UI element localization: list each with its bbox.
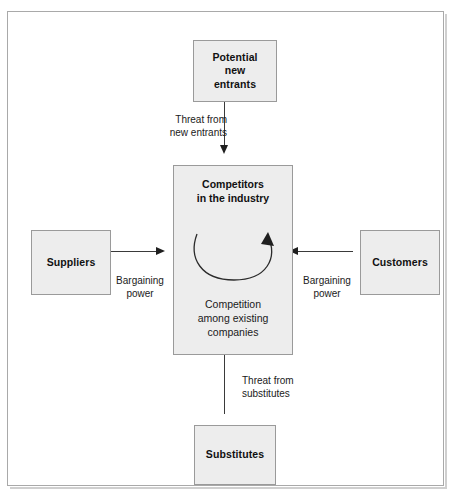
- edge-suppliers-to-center-arrowhead: [156, 247, 165, 255]
- node-customers-label: Customers: [372, 256, 428, 269]
- node-suppliers-label: Suppliers: [47, 256, 96, 269]
- edge-label-customer-bargaining-power: Bargaining power: [296, 274, 358, 301]
- node-customers[interactable]: Customers: [360, 230, 440, 295]
- node-potential-new-entrants[interactable]: Potential new entrants: [193, 40, 277, 102]
- node-potential-new-entrants-label: Potential new entrants: [212, 51, 257, 91]
- edge-label-threat-new-entrants: Threat from new entrants: [149, 113, 227, 140]
- edge-customers-to-center-line: [298, 251, 353, 252]
- edge-entrants-to-center-arrowhead: [220, 145, 228, 154]
- circular-rivalry-arrow-icon: [188, 228, 280, 290]
- node-center-subtitle: Competition among existing companies: [174, 298, 292, 340]
- node-competitors-in-the-industry[interactable]: Competitors in the industry Competition …: [173, 165, 293, 355]
- diagram-frame: Threat from new entrants Threat from sub…: [7, 11, 444, 486]
- node-suppliers[interactable]: Suppliers: [31, 230, 111, 295]
- node-substitutes-label: Substitutes: [206, 448, 264, 461]
- edge-substitutes-to-center-line: [224, 353, 225, 414]
- edge-label-supplier-bargaining-power: Bargaining power: [109, 274, 171, 301]
- edge-suppliers-to-center-line: [104, 251, 156, 252]
- node-substitutes[interactable]: Substitutes: [194, 425, 276, 485]
- edge-label-threat-substitutes: Threat from substitutes: [242, 374, 324, 401]
- node-center-title: Competitors in the industry: [174, 178, 292, 205]
- diagram-canvas: Threat from new entrants Threat from sub…: [0, 0, 454, 496]
